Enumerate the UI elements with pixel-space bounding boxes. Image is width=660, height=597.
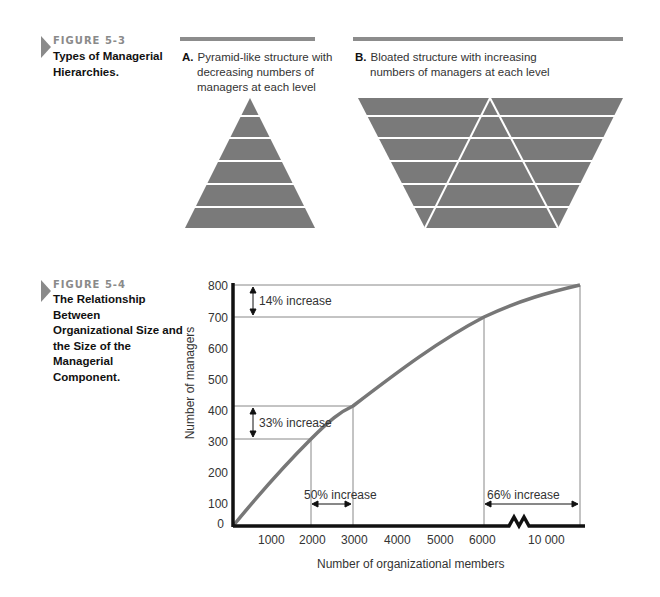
y-tick: 600 bbox=[208, 342, 228, 356]
y-tick: 100 bbox=[208, 497, 228, 511]
y-tick: 500 bbox=[208, 373, 228, 387]
x-tick: 2000 bbox=[299, 533, 326, 547]
annotation-66-increase: 66% increase bbox=[487, 488, 560, 502]
y-tick: 400 bbox=[208, 404, 228, 418]
x-axis-label: Number of organizational members bbox=[317, 557, 504, 571]
y-tick: 700 bbox=[208, 311, 228, 325]
x-tick: 6000 bbox=[469, 533, 496, 547]
annotation-33-increase: 33% increase bbox=[259, 416, 332, 430]
y-tick: 800 bbox=[208, 279, 228, 293]
x-tick: 4000 bbox=[384, 533, 411, 547]
annotation-14-increase: 14% increase bbox=[259, 294, 332, 308]
y-tick: 200 bbox=[208, 466, 228, 480]
y-tick: 0 bbox=[217, 517, 224, 531]
annotation-50-increase: 50% increase bbox=[304, 488, 377, 502]
y-tick: 300 bbox=[208, 435, 228, 449]
x-tick: 1000 bbox=[258, 533, 285, 547]
x-tick: 3000 bbox=[341, 533, 368, 547]
x-tick: 10 000 bbox=[528, 533, 565, 547]
y-axis-label: Number of managers bbox=[183, 323, 197, 443]
x-tick: 5000 bbox=[427, 533, 454, 547]
